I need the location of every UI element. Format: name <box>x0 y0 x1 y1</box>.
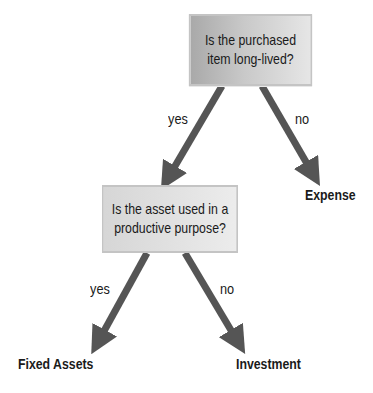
arrow-q2-yes <box>98 253 147 342</box>
leaf-expense: Expense <box>305 186 356 203</box>
arrow-q1-yes <box>168 86 222 178</box>
edge-label-q1-no: no <box>295 110 309 127</box>
decision-node-long-lived: Is the purchased item long-lived? <box>189 14 312 86</box>
node-text-line: Is the purchased <box>205 31 296 50</box>
edge-label-q2-yes: yes <box>90 280 110 297</box>
node-text-line: item long-lived? <box>205 50 296 69</box>
leaf-investment: Investment <box>236 355 301 372</box>
node-text-line: productive purpose? <box>112 219 228 238</box>
edge-label-q1-yes: yes <box>168 110 188 127</box>
arrow-q1-no <box>262 86 313 174</box>
edge-label-q2-no: no <box>220 280 234 297</box>
arrow-q2-no <box>185 253 238 342</box>
leaf-fixed-assets: Fixed Assets <box>18 355 93 372</box>
decision-node-productive-purpose: Is the asset used in a productive purpos… <box>102 185 238 253</box>
node-text-line: Is the asset used in a <box>112 200 228 219</box>
